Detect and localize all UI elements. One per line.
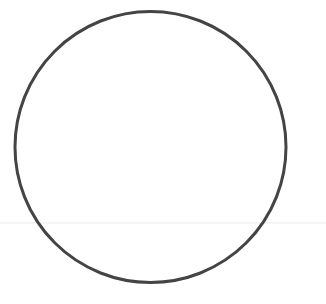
background	[0, 0, 326, 304]
diagram-canvas	[0, 0, 326, 304]
